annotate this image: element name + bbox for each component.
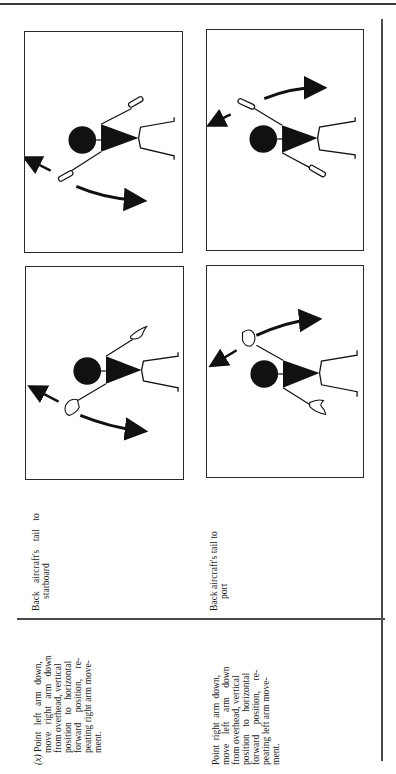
figure-frame-port-wands	[206, 29, 364, 251]
signal-figure-wands-icon	[25, 32, 182, 252]
figure-frame-port-hands	[206, 265, 364, 478]
description-line: ment.	[271, 666, 281, 765]
signal-meaning-starboard: Back aircraft's tail to starboard	[31, 513, 51, 611]
signal-description-port: Point right arm down, move left arm down…	[211, 666, 281, 765]
meaning-line: starboard	[41, 513, 51, 611]
signal-figure-wands-icon	[207, 30, 363, 250]
figure-frame-starboard-wands	[24, 31, 183, 253]
signal-description-starboard: (x) Point left arm down, move right arm …	[33, 655, 103, 765]
meaning-line: port	[219, 531, 229, 611]
signal-label: (x)	[32, 754, 43, 765]
signal-meaning-port: Back aircraft's tail to port	[209, 531, 229, 611]
column-rule	[381, 19, 383, 761]
column-divider	[17, 618, 385, 620]
figure-frame-starboard-hands	[25, 266, 184, 480]
description-line: ment.	[93, 655, 103, 765]
meaning-line: Back aircraft's tail to	[209, 531, 219, 611]
top-rule	[0, 3, 396, 5]
signal-figure-hands-icon	[207, 266, 363, 477]
signal-figure-hands-icon	[26, 267, 183, 479]
